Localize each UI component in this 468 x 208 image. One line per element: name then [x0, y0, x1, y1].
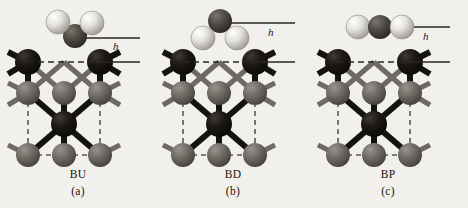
molecule-atom-center: [368, 15, 392, 39]
figure-container: h BU (a): [0, 0, 468, 208]
panel-index-a: (a): [0, 185, 156, 197]
molecule-atom-terminal-left: [46, 10, 70, 34]
config-label-bu: BU: [0, 168, 156, 180]
panel-index-b: (b): [155, 185, 311, 197]
molecule-bp: [346, 15, 414, 39]
height-symbol-b: h: [268, 26, 274, 38]
molecule-atom-terminal-left: [191, 26, 215, 50]
panel-bp: h BP (c): [310, 0, 466, 208]
config-label-bp: BP: [310, 168, 466, 180]
molecule-atom-terminal-right: [225, 26, 249, 50]
height-symbol-a: h: [113, 40, 119, 52]
molecule-bu: [46, 10, 104, 48]
panel-bu: h BU (a): [0, 0, 156, 208]
height-symbol-c: h: [423, 30, 429, 42]
panel-index-c: (c): [310, 185, 466, 197]
molecule-bd: [191, 9, 249, 50]
molecule-atom-terminal-right: [390, 15, 414, 39]
molecule-atom-terminal-right: [80, 11, 104, 35]
molecule-atom-terminal-left: [346, 15, 370, 39]
panel-bd: h BD (b): [155, 0, 311, 208]
config-label-bd: BD: [155, 168, 311, 180]
